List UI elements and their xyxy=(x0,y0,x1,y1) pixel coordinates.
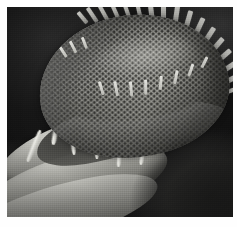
valve-ridge xyxy=(144,80,147,95)
sem-micrograph-figure: Grayscale scanning electron micrograph o… xyxy=(0,0,237,227)
micrograph-plate xyxy=(7,7,233,217)
